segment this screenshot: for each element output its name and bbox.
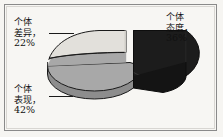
slice-label-attitude-percent: 36% bbox=[166, 33, 193, 44]
slice-label-attitude-line1: 个体 bbox=[166, 12, 193, 23]
slice-label-attitude: 个体 态度， 36% bbox=[166, 12, 193, 44]
slice-label-performance: 个体 表现， 42% bbox=[14, 84, 41, 116]
slice-label-difference-percent: 22% bbox=[14, 38, 41, 49]
slice-label-difference: 个体 差异， 22% bbox=[14, 17, 41, 49]
slice-label-difference-line1: 个体 bbox=[14, 17, 41, 28]
slice-label-performance-line1: 个体 bbox=[14, 84, 41, 95]
slice-label-performance-percent: 42% bbox=[14, 105, 41, 116]
pie-chart-screenshot: 个体 差异， 22% 个体 表现， 42% 个体 态度， 36% bbox=[0, 0, 223, 137]
leader-line-difference bbox=[49, 33, 74, 34]
leader-line-performance bbox=[49, 96, 73, 97]
slice-difference-side bbox=[125, 31, 127, 53]
